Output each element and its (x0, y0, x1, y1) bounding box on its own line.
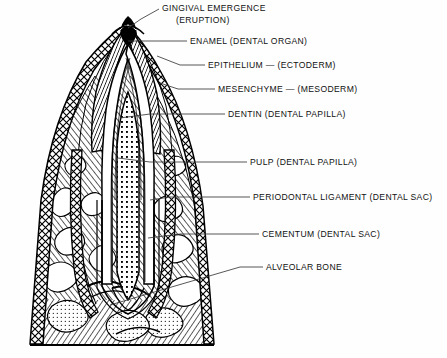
label-pulp: PULP (DENTAL PAPILLA) (250, 157, 357, 167)
label-dentin: DENTIN (DENTAL PAPILLA) (228, 109, 346, 119)
label-enamel: ENAMEL (DENTAL ORGAN) (190, 36, 307, 46)
leader-epithelium (157, 56, 205, 65)
label-epithelium: EPITHELIUM — (ECTODERM) (208, 60, 336, 70)
label-mesenchyme: MESENCHYME — (MESODERM) (218, 84, 357, 94)
pulp-chamber (117, 92, 139, 300)
label-cementum: CEMENTUM (DENTAL SAC) (262, 229, 380, 239)
label-gingival-emergence-line2: (ERUPTION) (176, 15, 230, 25)
label-periodontal-ligament: PERIODONTAL LIGAMENT (DENTAL SAC) (253, 192, 432, 202)
label-alveolar-bone: ALVEOLAR BONE (266, 262, 342, 272)
label-gingival-emergence: GINGIVAL EMERGENCE (162, 3, 266, 13)
tooth-eruption-diagram: GINGIVAL EMERGENCE (ERUPTION) ENAMEL (DE… (0, 0, 447, 358)
leader-gingival-emergence (128, 9, 159, 28)
